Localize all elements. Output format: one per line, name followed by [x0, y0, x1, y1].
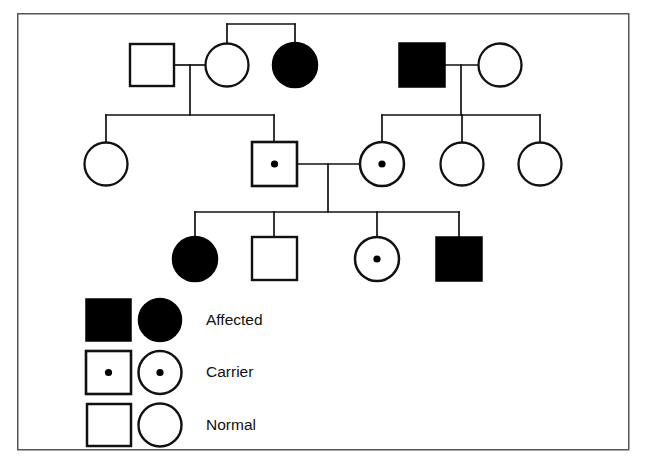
legend-row-normal: Normal	[87, 404, 256, 447]
individual-i2-1-female-normal[interactable]	[85, 143, 128, 186]
legend: Affected Carrier Normal	[86, 299, 263, 447]
symbol-circle-normal	[85, 143, 128, 186]
individual-i2-5-female-normal[interactable]	[519, 143, 562, 186]
symbol-circle-affected	[173, 237, 218, 282]
individual-i1-5-female-normal[interactable]	[479, 44, 522, 87]
symbol-square-affected	[436, 237, 482, 281]
carrier-dot	[271, 160, 278, 167]
pedigree-canvas: Affected Carrier Normal	[0, 0, 646, 464]
legend-symbol-square-affected	[86, 299, 131, 341]
individual-i3-3-female-carrier[interactable]	[355, 237, 399, 281]
symbol-circle-normal	[206, 44, 249, 87]
generation-3	[173, 237, 483, 282]
legend-row-carrier: Carrier	[86, 351, 253, 394]
legend-label-carrier: Carrier	[206, 363, 253, 380]
individual-i1-1-male-normal[interactable]	[130, 44, 174, 86]
symbol-circle-normal	[519, 143, 562, 186]
individual-i1-4-male-affected[interactable]	[399, 43, 445, 87]
legend-carrier-dot-square	[105, 369, 112, 376]
symbol-circle-normal	[441, 143, 484, 186]
symbol-circle-affected	[273, 43, 318, 88]
symbol-square-normal	[252, 237, 297, 280]
pedigree-figure: Affected Carrier Normal	[0, 0, 646, 464]
carrier-dot	[378, 160, 385, 167]
individual-i1-2-female-normal[interactable]	[206, 44, 249, 87]
symbol-square-normal	[130, 44, 174, 86]
individual-i2-3-female-carrier[interactable]	[360, 142, 404, 186]
individual-i3-2-male-normal[interactable]	[252, 237, 297, 280]
carrier-dot	[373, 255, 380, 262]
legend-label-normal: Normal	[206, 416, 256, 433]
legend-row-affected: Affected	[86, 299, 263, 342]
symbol-square-affected	[399, 43, 445, 87]
legend-symbol-square-normal	[87, 404, 131, 446]
symbol-circle-normal	[479, 44, 522, 87]
legend-label-affected: Affected	[206, 311, 263, 328]
individual-i2-4-female-normal[interactable]	[441, 143, 484, 186]
individual-i3-1-female-affected[interactable]	[173, 237, 218, 282]
individual-i3-4-male-affected[interactable]	[436, 237, 482, 281]
individual-i2-2-male-carrier[interactable]	[252, 142, 297, 186]
legend-symbol-circle-affected	[139, 299, 182, 342]
individual-i1-3-female-affected[interactable]	[273, 43, 318, 88]
legend-carrier-dot-circle	[156, 369, 163, 376]
legend-symbol-circle-normal	[139, 404, 182, 447]
